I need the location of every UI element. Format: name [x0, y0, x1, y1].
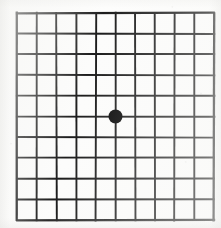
- grid-cell: [194, 199, 214, 220]
- grid-cell: [116, 158, 136, 179]
- grid-cell: [194, 179, 214, 200]
- grid-cell: [37, 54, 57, 75]
- grid-cell: [155, 96, 175, 117]
- grid-cell: [155, 179, 175, 200]
- amsler-grid-svg: [14, 10, 217, 223]
- grid-cell: [116, 179, 136, 200]
- grid-cell: [37, 96, 57, 117]
- grid-cell: [194, 75, 214, 96]
- grid-cell: [56, 75, 76, 96]
- grid-cell: [96, 179, 116, 200]
- grid-cell: [135, 199, 155, 220]
- grid-cell: [17, 158, 37, 179]
- grid-cell: [155, 34, 175, 55]
- grid-cell: [155, 158, 175, 179]
- grid-cell: [175, 13, 195, 34]
- grid-cell: [96, 34, 116, 55]
- grid-cell: [135, 54, 155, 75]
- grid-cell: [135, 179, 155, 200]
- grid-cell: [116, 199, 136, 220]
- grid-cell: [175, 158, 195, 179]
- grid-cell: [155, 137, 175, 158]
- grid-cell: [194, 54, 214, 75]
- grid-cell: [76, 34, 96, 55]
- grid-cell: [96, 137, 116, 158]
- grid-cell: [37, 137, 57, 158]
- grid-cell: [116, 137, 136, 158]
- grid-cell: [96, 199, 116, 220]
- grid-cell: [155, 199, 175, 220]
- grid-cell: [116, 34, 136, 55]
- grid-cell: [76, 137, 96, 158]
- grid-cell: [37, 117, 57, 138]
- grid-cell: [37, 158, 57, 179]
- grid-cell: [155, 117, 175, 138]
- grid-cell: [56, 54, 76, 75]
- grid-container: [14, 10, 217, 223]
- grid-cell: [56, 96, 76, 117]
- grid-cell: [76, 75, 96, 96]
- grid-cell: [175, 75, 195, 96]
- grid-cell: [155, 54, 175, 75]
- grid-cell: [116, 13, 136, 34]
- grid-cell: [194, 117, 214, 138]
- grid-cell: [175, 96, 195, 117]
- grid-cell: [56, 34, 76, 55]
- grid-cell: [175, 54, 195, 75]
- grid-cell: [76, 117, 96, 138]
- grid-cell: [17, 117, 37, 138]
- grid-cell: [17, 13, 37, 34]
- grid-cell: [37, 75, 57, 96]
- grid-cell: [37, 179, 57, 200]
- central-fixation-dot-marker: [109, 110, 123, 124]
- grid-cell: [96, 75, 116, 96]
- grid-line-horizontal: [17, 75, 214, 76]
- grid-cell: [17, 75, 37, 96]
- grid-cell: [56, 179, 76, 200]
- grid-cell: [175, 137, 195, 158]
- grid-cell: [37, 199, 57, 220]
- grid-cell: [135, 96, 155, 117]
- grid-cell: [175, 117, 195, 138]
- grid-cell: [17, 96, 37, 117]
- grid-cell: [96, 13, 116, 34]
- grid-cell: [76, 199, 96, 220]
- grid-cell: [76, 54, 96, 75]
- grid-cell: [56, 137, 76, 158]
- grid-cell: [175, 34, 195, 55]
- grid-cell: [56, 158, 76, 179]
- grid-cell: [56, 199, 76, 220]
- grid-cell: [155, 13, 175, 34]
- grid-cell: [155, 75, 175, 96]
- grid-cell: [194, 34, 214, 55]
- grid-cell: [17, 54, 37, 75]
- grid-border-line-horizontal: [17, 13, 214, 14]
- grid-line-horizontal: [17, 137, 214, 138]
- grid-cell: [56, 13, 76, 34]
- grid-cell: [175, 179, 195, 200]
- grid-cell: [194, 158, 214, 179]
- grid-cell: [76, 179, 96, 200]
- grid-cell: [17, 34, 37, 55]
- grid-cell: [76, 13, 96, 34]
- grid-cell: [96, 54, 116, 75]
- grid-cell: [135, 117, 155, 138]
- grid-cell: [96, 158, 116, 179]
- grid-cell: [135, 137, 155, 158]
- grid-cell: [17, 137, 37, 158]
- grid-cell: [76, 96, 96, 117]
- grid-cell: [194, 137, 214, 158]
- amsler-grid-chart: [0, 0, 221, 228]
- grid-cell: [116, 54, 136, 75]
- grid-cell: [135, 75, 155, 96]
- grid-cell: [194, 13, 214, 34]
- grid-cell: [135, 34, 155, 55]
- grid-cell: [175, 199, 195, 220]
- grid-cell: [37, 34, 57, 55]
- grid-cell: [76, 158, 96, 179]
- grid-cell: [135, 13, 155, 34]
- grid-cell: [56, 117, 76, 138]
- grid-cell: [17, 179, 37, 200]
- grid-cell: [135, 158, 155, 179]
- grid-cell: [17, 199, 37, 220]
